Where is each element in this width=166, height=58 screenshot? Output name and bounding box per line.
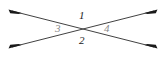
- angle-label-4: 4: [104, 23, 110, 34]
- arrowhead-bottom-right-icon: [145, 44, 158, 48]
- arrowhead-top-left-icon: [9, 10, 22, 14]
- angle-label-3: 3: [55, 23, 61, 34]
- arrowhead-top-right-icon: [145, 10, 158, 14]
- arrowhead-bottom-left-icon: [9, 44, 22, 48]
- angle-label-2: 2: [79, 35, 85, 46]
- angle-diagram-figure: 1 2 3 4: [0, 0, 166, 58]
- angle-label-1: 1: [79, 10, 85, 21]
